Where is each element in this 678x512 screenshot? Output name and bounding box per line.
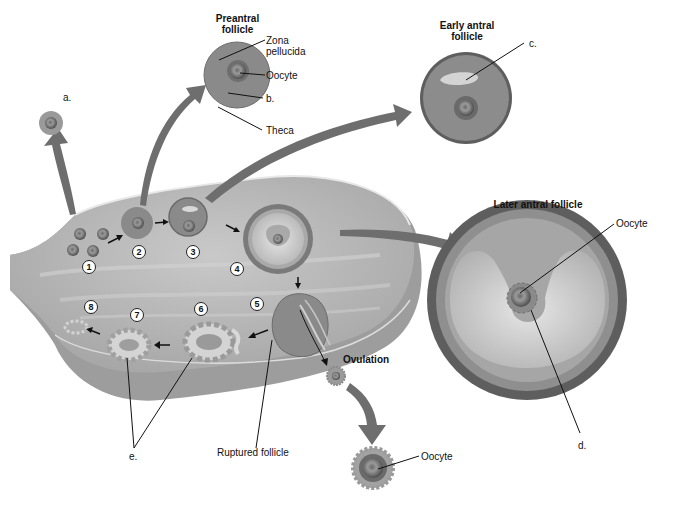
released-oocyte xyxy=(353,448,419,488)
stage-2-follicle xyxy=(121,207,153,239)
title-later-antral-follicle: Later antral follicle xyxy=(478,199,598,210)
stage-number-8: 8 xyxy=(84,300,98,314)
stage-number-4: 4 xyxy=(230,262,244,276)
stage-3-follicle xyxy=(169,198,207,236)
blank-label-b: b. xyxy=(266,93,274,104)
title-preantral-follicle: Preantral follicle xyxy=(205,13,270,35)
later-antral-follicle xyxy=(427,200,627,433)
title-ovulation: Ovulation xyxy=(343,354,389,365)
stage-number-2: 2 xyxy=(132,245,146,259)
stage-number-7: 7 xyxy=(130,308,144,322)
stage-number-3: 3 xyxy=(186,245,200,259)
label-oocyte-ovulated: Oocyte xyxy=(421,451,453,462)
label-zona-pellucida: Zona pellucida xyxy=(266,35,316,57)
stage-7-corpus-luteum xyxy=(109,330,149,360)
stage-number-1: 1 xyxy=(82,260,96,274)
label-theca: Theca xyxy=(266,125,294,136)
blank-label-a: a. xyxy=(63,92,71,103)
label-oocyte-later-antral: Oocyte xyxy=(616,218,648,229)
stage-5-ruptured-follicle xyxy=(272,294,330,357)
blank-label-c: c. xyxy=(529,38,537,49)
early-antral-follicle xyxy=(420,43,524,144)
label-ruptured-follicle: Ruptured follicle xyxy=(217,447,289,458)
stage-number-5: 5 xyxy=(250,297,264,311)
title-early-antral-follicle: Early antral follicle xyxy=(436,20,498,42)
stage-number-6: 6 xyxy=(194,302,208,316)
stage-4-follicle xyxy=(243,204,313,274)
blank-label-d: d. xyxy=(578,440,586,451)
ovary-cycle-diagram xyxy=(0,0,678,512)
label-oocyte-preantral: Oocyte xyxy=(266,70,298,81)
preantral-follicle xyxy=(204,40,270,130)
blank-label-e: e. xyxy=(129,451,137,462)
